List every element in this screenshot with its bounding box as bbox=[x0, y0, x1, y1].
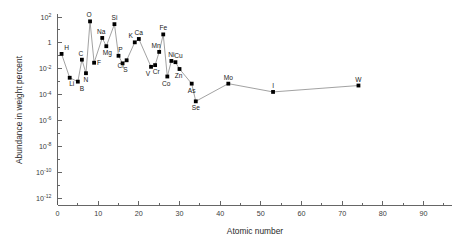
point-label-na: Na bbox=[97, 28, 106, 35]
x-tick-label: 0 bbox=[56, 209, 60, 218]
data-point-c bbox=[80, 58, 84, 62]
point-label-se: Se bbox=[192, 104, 200, 111]
abundance-vs-atomic-number-chart: 102110-210-410-610-810-1010-12 010203040… bbox=[0, 0, 466, 243]
x-tick-label: 40 bbox=[216, 209, 224, 218]
point-label-s: S bbox=[123, 66, 128, 73]
data-point-cl bbox=[125, 58, 129, 62]
y-axis-title: Abundance in weight percent bbox=[14, 55, 24, 164]
chart-figure: 102110-210-410-610-810-1010-12 010203040… bbox=[0, 0, 466, 243]
point-label-as: As bbox=[188, 87, 196, 94]
x-axis-title: Atomic number bbox=[227, 226, 284, 236]
point-label-p: P bbox=[118, 46, 123, 53]
point-label-i: I bbox=[272, 82, 274, 89]
x-tick-label: 20 bbox=[135, 209, 143, 218]
data-point-k bbox=[133, 40, 137, 44]
point-label-n: N bbox=[84, 76, 89, 83]
y-tick-label: 10-2 bbox=[39, 64, 52, 74]
y-tick-label: 10-10 bbox=[36, 167, 52, 177]
point-label-cl: Cl bbox=[118, 62, 125, 69]
x-tick-label: 30 bbox=[176, 209, 184, 218]
data-point-n bbox=[84, 71, 88, 75]
data-point-na bbox=[100, 36, 104, 40]
data-point-p bbox=[117, 54, 121, 58]
data-point-as bbox=[190, 82, 194, 86]
data-point-cr bbox=[153, 63, 157, 67]
point-label-co: Co bbox=[162, 80, 171, 87]
y-tick-label: 102 bbox=[41, 12, 52, 22]
point-label-h: H bbox=[64, 44, 69, 51]
x-tick-label: 90 bbox=[420, 209, 428, 218]
x-tick-label: 10 bbox=[94, 209, 102, 218]
x-axis-ticks: 0102030405060708090 bbox=[56, 201, 444, 218]
data-point-co bbox=[165, 75, 169, 79]
data-point-h bbox=[60, 52, 64, 56]
point-label-f: F bbox=[97, 59, 101, 66]
y-tick-label: 10-4 bbox=[39, 90, 52, 100]
x-tick-label: 80 bbox=[379, 209, 387, 218]
y-tick-label: 1 bbox=[48, 38, 52, 47]
point-label-mo: Mo bbox=[224, 74, 233, 81]
data-point-zn bbox=[178, 67, 182, 71]
point-label-zn: Zn bbox=[175, 72, 183, 79]
point-label-cr: Cr bbox=[153, 68, 161, 75]
abundance-polyline bbox=[62, 21, 359, 101]
point-label-v: V bbox=[146, 70, 151, 77]
point-label-k: K bbox=[129, 32, 134, 39]
data-point-mn bbox=[157, 50, 161, 54]
point-label-cu: Cu bbox=[174, 52, 183, 59]
point-label-ca: Ca bbox=[135, 29, 144, 36]
data-point-si bbox=[113, 22, 117, 26]
point-label-o: O bbox=[86, 11, 91, 18]
data-point-ca bbox=[137, 37, 141, 41]
data-point-i bbox=[271, 90, 275, 94]
point-label-li: Li bbox=[69, 80, 75, 87]
data-point-f bbox=[92, 61, 96, 65]
point-label-fe: Fe bbox=[159, 24, 167, 31]
data-point-o bbox=[88, 19, 92, 23]
point-label-si: Si bbox=[112, 14, 118, 21]
x-tick-label: 70 bbox=[338, 209, 346, 218]
data-point-b bbox=[76, 80, 80, 84]
data-point-mo bbox=[226, 82, 230, 86]
point-label-w: W bbox=[355, 76, 362, 83]
point-label-c: C bbox=[79, 50, 84, 57]
point-label-mn: Mn bbox=[152, 42, 161, 49]
y-tick-label: 10-6 bbox=[39, 115, 52, 125]
y-tick-label: 10-8 bbox=[39, 141, 52, 151]
x-tick-label: 50 bbox=[257, 209, 265, 218]
data-series-line bbox=[62, 21, 359, 101]
data-point-labels: HLiBCNOFNaMgSiPSClKCaVCrMnFeCoNiCuZnAsSe… bbox=[64, 11, 362, 111]
y-tick-label: 10-12 bbox=[36, 193, 52, 203]
point-label-b: B bbox=[80, 85, 85, 92]
data-point-ni bbox=[169, 59, 173, 63]
x-tick-label: 60 bbox=[298, 209, 306, 218]
data-point-se bbox=[194, 99, 198, 103]
data-point-mg bbox=[104, 44, 108, 48]
data-point-fe bbox=[161, 33, 165, 37]
data-point-w bbox=[357, 84, 361, 88]
data-point-cu bbox=[174, 60, 178, 64]
point-label-mg: Mg bbox=[103, 49, 112, 57]
